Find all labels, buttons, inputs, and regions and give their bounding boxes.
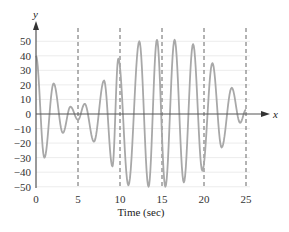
x-tick-label: 20 xyxy=(199,193,211,205)
y-tick-label: 20 xyxy=(20,79,32,91)
y-tick-label: −30 xyxy=(14,152,32,164)
y-tick-label: −20 xyxy=(14,137,32,149)
y-tick-label: 0 xyxy=(26,108,32,120)
y-tick-label: −50 xyxy=(14,181,32,193)
y-tick-label: 10 xyxy=(20,93,32,105)
x-axis-letter: x xyxy=(272,108,278,120)
x-axis-arrow-icon xyxy=(261,111,270,117)
y-axis-arrow-icon xyxy=(33,21,39,30)
vertical-dashed-lines xyxy=(78,28,246,188)
x-tick-label: 25 xyxy=(241,193,253,205)
y-axis-letter: y xyxy=(32,8,38,20)
x-axis-title: Time (sec) xyxy=(118,206,165,219)
y-tick-label: −10 xyxy=(14,123,32,135)
x-tick-label: 15 xyxy=(157,193,169,205)
x-tick-label: 10 xyxy=(115,193,127,205)
waveform-curve xyxy=(36,40,246,187)
line-chart: y x 50403020100−10−20−30−40−50 051015202… xyxy=(0,0,289,232)
x-tick-label: 0 xyxy=(33,193,39,205)
y-tick-labels: 50403020100−10−20−30−40−50 xyxy=(14,35,32,193)
y-tick-label: 50 xyxy=(20,35,32,47)
y-tick-label: 30 xyxy=(20,64,32,76)
y-tick-label: 40 xyxy=(20,50,32,62)
y-tick-label: −40 xyxy=(14,166,32,178)
x-tick-labels: 0510152025 xyxy=(33,193,252,205)
x-tick-label: 5 xyxy=(75,193,81,205)
